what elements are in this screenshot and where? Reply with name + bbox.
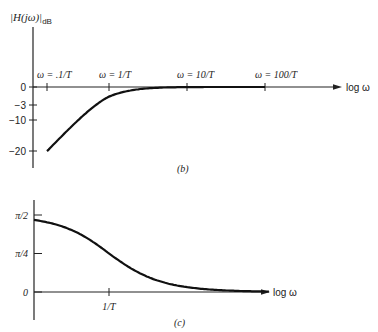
x-axis-arrow-icon <box>333 84 342 90</box>
magnitude-chart: log ω |H(jω)|dB ω = .1/Tω = 1/Tω = 10/Tω… <box>9 11 370 175</box>
y-axis-label: |H(jω)|dB <box>10 11 52 26</box>
y-tick-label: 0 <box>20 82 26 93</box>
y-axis-label-sub: dB <box>42 17 52 26</box>
y-tick-label: −3 <box>15 100 27 111</box>
panel-label-b: (b) <box>177 163 189 175</box>
x-tick-label: ω = 1/T <box>99 69 133 80</box>
x-axis-label: log ω <box>346 82 370 93</box>
x-tick-label: ω = 100/T <box>255 69 299 80</box>
y-axis-label-main: |H(jω)| <box>10 11 42 24</box>
x-tick-label: 1/T <box>102 301 117 312</box>
y-tick-label: 0 <box>23 287 28 298</box>
magnitude-curve <box>47 87 265 151</box>
y-tick-label: π/4 <box>15 248 28 259</box>
x-tick-label: ω = .1/T <box>37 69 73 80</box>
x-tick-label: ω = 10/T <box>177 69 216 80</box>
y-tick-label: π/2 <box>15 210 28 221</box>
y-tick-label: −20 <box>9 146 26 157</box>
panel-label-c: (c) <box>174 317 186 329</box>
y-tick-label: −10 <box>9 115 26 126</box>
x-axis-label: log ω <box>273 287 297 298</box>
phase-chart: log ω 1/T π/2π/40 (c) <box>15 200 297 329</box>
figure: log ω |H(jω)|dB ω = .1/Tω = 1/Tω = 10/Tω… <box>0 0 378 332</box>
phase-curve <box>34 220 269 292</box>
